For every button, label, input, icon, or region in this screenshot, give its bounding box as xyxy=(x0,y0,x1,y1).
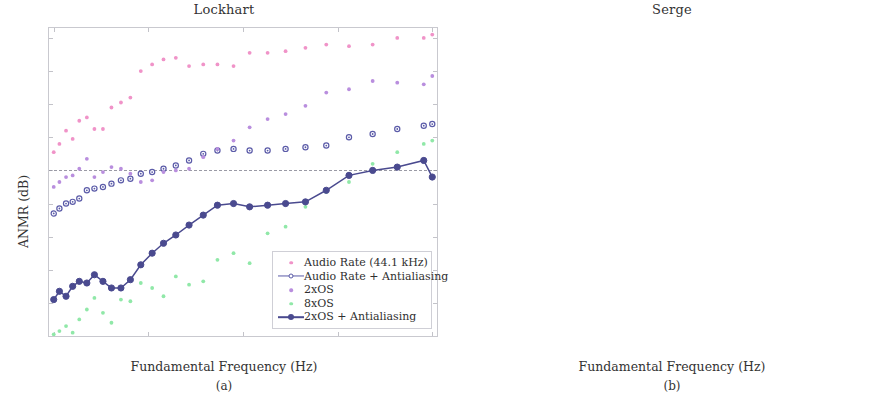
data-point-center xyxy=(151,171,153,173)
panel-a-y-axis-label: ANMR (dB) xyxy=(16,175,31,248)
data-point xyxy=(394,164,400,170)
data-point xyxy=(149,250,155,256)
data-point xyxy=(216,63,220,67)
panel-a-title: Lockhart xyxy=(0,2,448,17)
data-point xyxy=(118,285,124,291)
data-point xyxy=(230,200,236,206)
data-point xyxy=(119,101,123,105)
legend-marker-icon xyxy=(278,283,304,297)
data-point xyxy=(85,308,89,312)
data-point xyxy=(100,278,106,284)
series-2xos xyxy=(52,74,434,189)
data-point xyxy=(110,106,114,110)
data-point xyxy=(187,64,191,68)
data-point-center xyxy=(163,168,165,170)
data-point xyxy=(139,180,143,184)
data-point xyxy=(108,285,114,291)
data-point xyxy=(430,139,434,143)
data-point xyxy=(56,288,62,294)
data-point xyxy=(138,262,144,268)
legend-entry: Audio Rate + Antialiasing xyxy=(278,270,424,284)
x-tick-label: 1k xyxy=(48,336,61,337)
data-point xyxy=(232,139,236,143)
legend-entry-label: 2xOS xyxy=(304,283,334,297)
data-point xyxy=(248,125,252,129)
data-point xyxy=(91,272,97,278)
series-audio-rate-antialiasing xyxy=(51,121,435,216)
data-point xyxy=(110,165,114,169)
panel-lockhart: Lockhart ANMR (dB) -60-50-40-30-20-10010… xyxy=(0,0,448,396)
data-point xyxy=(216,258,220,262)
data-point-center xyxy=(249,150,251,152)
data-point xyxy=(284,225,288,229)
data-point-center xyxy=(372,133,374,135)
data-point xyxy=(430,33,434,37)
data-point xyxy=(93,175,97,179)
data-point xyxy=(324,91,328,95)
data-point xyxy=(85,116,89,120)
panel-a-subcaption: (a) xyxy=(0,379,448,393)
legend-entry-label: 8xOS xyxy=(304,297,334,311)
data-point xyxy=(162,294,166,298)
data-point-center xyxy=(396,128,398,130)
data-point-center xyxy=(267,150,269,152)
data-point xyxy=(347,87,351,91)
data-point-center xyxy=(120,179,122,181)
legend-marker-icon xyxy=(278,256,304,270)
data-point-center xyxy=(233,148,235,150)
data-point-center xyxy=(111,183,113,185)
data-point xyxy=(304,104,308,108)
panel-a-x-axis-label: Fundamental Frequency (Hz) xyxy=(0,359,448,374)
legend-marker-icon xyxy=(278,297,304,311)
data-point xyxy=(304,205,308,209)
legend-entry-label: 2xOS + Antialiasing xyxy=(304,310,416,324)
data-point xyxy=(63,293,69,299)
data-point xyxy=(52,332,56,336)
legend-entry: Audio Rate (44.1 kHz) xyxy=(278,256,424,270)
legend-marker-icon xyxy=(278,270,304,284)
data-point xyxy=(128,172,132,176)
data-point-center xyxy=(72,201,74,203)
data-point xyxy=(187,283,191,287)
data-point xyxy=(247,204,253,210)
data-point xyxy=(110,321,114,325)
data-point xyxy=(58,180,62,184)
data-point-center xyxy=(285,148,287,150)
data-point xyxy=(64,129,68,133)
data-point xyxy=(284,49,288,53)
data-point xyxy=(162,170,166,174)
data-point-center xyxy=(188,160,190,162)
y-tickmark xyxy=(49,336,53,337)
data-point xyxy=(186,222,192,228)
data-point xyxy=(201,279,205,283)
data-point xyxy=(248,51,252,55)
data-point xyxy=(395,81,399,85)
data-point xyxy=(51,296,57,302)
panel-b-title: Serge xyxy=(448,2,896,17)
data-point xyxy=(58,329,62,333)
data-point xyxy=(232,251,236,255)
data-point xyxy=(422,36,426,40)
data-point xyxy=(265,202,271,208)
x-tick-label: 5k xyxy=(425,336,438,337)
data-point xyxy=(127,277,133,283)
data-point xyxy=(422,82,426,86)
data-point xyxy=(347,44,351,48)
panel-b-x-axis-label: Fundamental Frequency (Hz) xyxy=(448,359,896,374)
data-point xyxy=(70,283,76,289)
data-point xyxy=(85,157,89,161)
data-point xyxy=(371,43,375,47)
data-point xyxy=(76,278,82,284)
x-tick-label: 3k xyxy=(236,336,250,337)
data-point xyxy=(201,63,205,67)
legend-lockhart: Audio Rate (44.1 kHz)Audio Rate + Antial… xyxy=(272,251,432,329)
y-tickmark-right xyxy=(433,336,437,337)
data-point xyxy=(84,280,90,286)
series-audio-rate-44-1-khz xyxy=(52,33,434,154)
x-tick-label: 2k xyxy=(141,336,155,337)
legend-entry: 2xOS + Antialiasing xyxy=(278,310,424,324)
data-point-center xyxy=(53,213,55,215)
data-point xyxy=(93,127,97,131)
data-point-center xyxy=(129,178,131,180)
data-point-center xyxy=(65,203,67,205)
